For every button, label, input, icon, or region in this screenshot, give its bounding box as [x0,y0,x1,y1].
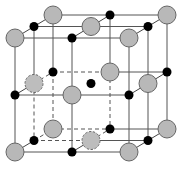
small-ion [106,125,115,134]
lattice-diagram [0,0,180,186]
large-ion [82,18,100,36]
large-ion [63,86,81,104]
small-ion [125,91,134,100]
large-ion [158,120,176,138]
small-ion [144,136,153,145]
small-ion [30,136,39,145]
small-ion [87,79,96,88]
large-ion [101,63,119,81]
crystal-lattice-svg [0,0,180,186]
large-ion [120,29,138,47]
small-ion [163,68,172,77]
large-ion [6,29,24,47]
small-ion [144,22,153,31]
large-ion [82,132,100,150]
large-ion [44,6,62,24]
small-ion [68,148,77,157]
small-ion [30,22,39,31]
large-ion [25,75,43,93]
large-ion [120,143,138,161]
large-ion [158,6,176,24]
small-ion [49,68,58,77]
large-ion [139,75,157,93]
small-ion [11,91,20,100]
small-ion [106,11,115,20]
large-ion [44,120,62,138]
large-ion [6,143,24,161]
small-ion [68,34,77,43]
